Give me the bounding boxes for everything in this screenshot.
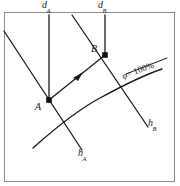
label-d-a-subscript: A	[47, 7, 51, 14]
point-a-marker	[46, 97, 52, 103]
label-h-a-subscript: A	[83, 155, 87, 162]
label-d-a: dA	[42, 0, 51, 13]
thermodynamic-diagram-figure: dA dB B A φ= 100% hB hA	[0, 0, 180, 186]
figure-frame	[5, 13, 175, 182]
saturation-curve	[33, 69, 162, 148]
label-h-b: hB	[148, 118, 157, 131]
line-h-a	[4, 31, 82, 150]
diagram-canvas	[0, 0, 180, 186]
label-d-b: dB	[98, 0, 107, 13]
point-b-marker	[102, 52, 108, 58]
label-d-b-subscript: B	[103, 7, 107, 14]
label-point-a: A	[35, 102, 41, 112]
label-h-a: hA	[78, 148, 87, 161]
label-point-b: B	[91, 44, 97, 54]
label-h-b-subscript: B	[153, 125, 157, 132]
